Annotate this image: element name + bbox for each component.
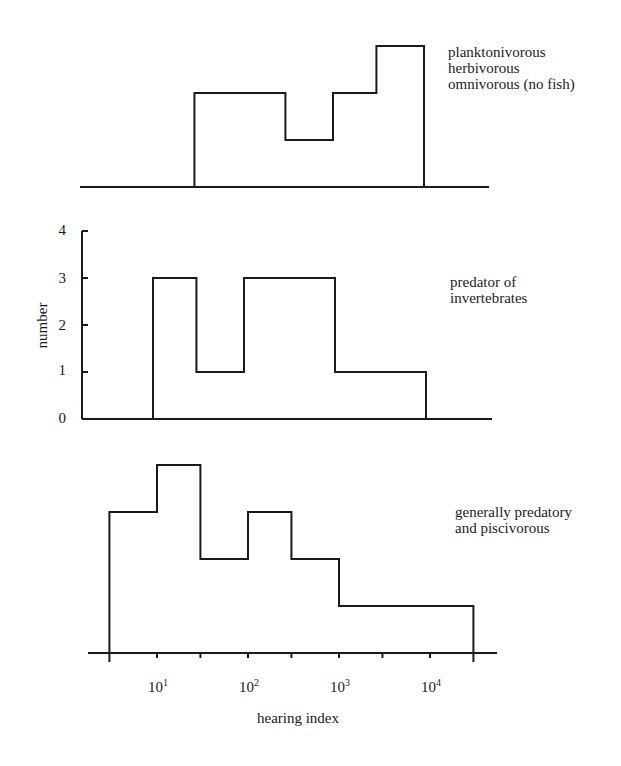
x-axis-label: hearing index	[257, 710, 339, 727]
panel3-label-line: generally predatory	[455, 504, 572, 520]
x-tick-base: 10	[421, 679, 436, 695]
histogram-steps	[153, 278, 426, 419]
panel2-label-line: invertebrates	[450, 290, 527, 306]
panel1-label-line: herbivorous	[448, 60, 575, 76]
y-axis	[82, 231, 88, 419]
x-tick-exp: 4	[436, 677, 441, 688]
x-tick-exp: 3	[345, 677, 350, 688]
x-tick-base: 10	[148, 679, 163, 695]
x-tick-base: 10	[330, 679, 345, 695]
x-tick-label-10-2: 102	[239, 677, 259, 696]
panel1-label-line: omnivorous (no fish)	[448, 76, 575, 92]
x-tick-label-10-3: 103	[330, 677, 350, 696]
x-tick-label-10-4: 104	[421, 677, 441, 696]
panel3-label-line: and piscivorous	[455, 520, 572, 536]
y-axis-label: number	[34, 296, 51, 356]
histogram-chart	[0, 0, 621, 766]
panel-planktonivorous	[80, 46, 489, 187]
histogram-steps	[109, 465, 473, 653]
panel1-label-line: planktonivorous	[448, 44, 575, 60]
x-tick-label-10-1: 101	[148, 677, 168, 696]
y-tick-label: 1	[52, 362, 66, 379]
histogram-steps	[194, 46, 424, 187]
panel-generally-predatory	[88, 465, 497, 653]
y-tick-label: 3	[52, 270, 66, 287]
panel3-label: generally predatory and piscivorous	[455, 504, 572, 536]
y-tick-label: 2	[52, 317, 66, 334]
panel1-label: planktonivorous herbivorous omnivorous (…	[448, 44, 575, 92]
y-tick-label: 4	[52, 222, 66, 239]
x-axis	[109, 653, 473, 662]
panel2-label: predator of invertebrates	[450, 274, 527, 306]
x-tick-exp: 2	[254, 677, 259, 688]
y-tick-label: 0	[52, 410, 66, 427]
panel2-label-line: predator of	[450, 274, 527, 290]
x-tick-exp: 1	[163, 677, 168, 688]
panel-predator-of-invertebrates	[82, 278, 492, 419]
x-tick-base: 10	[239, 679, 254, 695]
